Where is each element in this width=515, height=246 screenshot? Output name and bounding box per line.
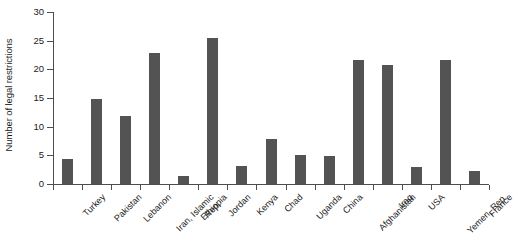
x-axis-tick <box>82 185 83 190</box>
x-axis-tick-label: Pakistan <box>112 192 143 223</box>
x-axis-tick-label-line: Uganda <box>314 192 343 221</box>
x-axis-tick <box>402 185 403 190</box>
x-axis-tick-label: Chad <box>282 192 304 214</box>
y-axis-tick-label: 10 <box>0 122 44 132</box>
y-axis-tick-label-text: 5 <box>2 150 44 160</box>
x-axis-tick-label: China <box>341 192 365 216</box>
bar <box>236 166 247 184</box>
x-axis-line <box>53 184 489 185</box>
x-axis-tick-label: Turkey <box>80 192 106 218</box>
x-axis-tick-label: Kenya <box>254 192 279 217</box>
bars-layer <box>53 12 489 184</box>
y-axis-tick-label: 30 <box>0 7 44 17</box>
x-axis-tick <box>256 185 257 190</box>
x-axis-tick <box>169 185 170 190</box>
x-axis-tick-label-line: Jordan <box>226 192 253 219</box>
bar <box>178 176 189 184</box>
x-axis-tick-label-line: Pakistan <box>112 192 143 223</box>
x-axis-tick <box>489 185 490 190</box>
bar <box>382 65 393 184</box>
x-axis-tick <box>140 185 141 190</box>
y-axis-tick-label-text: 0 <box>2 179 44 189</box>
x-axis-tick-label-line: USA <box>427 192 447 212</box>
y-axis-tick-label-text: 15 <box>2 93 44 103</box>
x-axis-tick-label-line: Turkey <box>80 192 106 218</box>
x-axis-tick <box>373 185 374 190</box>
x-axis-tick <box>431 185 432 190</box>
bar <box>353 60 364 184</box>
bar <box>207 38 218 184</box>
bar <box>469 171 480 184</box>
x-axis-tick <box>111 185 112 190</box>
x-axis-tick-label-line: China <box>341 192 365 216</box>
x-axis-tick-label-line: Lebanon <box>141 192 173 224</box>
bar <box>295 155 306 184</box>
x-axis-tick <box>460 185 461 190</box>
bar <box>411 167 422 184</box>
x-axis-tick <box>198 185 199 190</box>
y-axis-tick-label: 0 <box>0 179 44 189</box>
bar <box>324 156 335 184</box>
bar <box>149 53 160 184</box>
x-axis-tick-label: Jordan <box>226 192 253 219</box>
y-axis-tick-label-text: 30 <box>2 7 44 17</box>
x-axis-tick-label: Uganda <box>314 192 343 221</box>
x-axis-tick <box>315 185 316 190</box>
y-axis-tick-label: 15 <box>0 93 44 103</box>
x-axis-tick <box>286 185 287 190</box>
x-axis-tick-label-line: Chad <box>282 192 304 214</box>
y-axis-tick-label: 25 <box>0 36 44 46</box>
x-axis-tick <box>53 185 54 190</box>
bar <box>120 116 131 184</box>
y-axis-tick-label: 5 <box>0 150 44 160</box>
bar <box>440 60 451 184</box>
bar <box>266 139 277 184</box>
x-axis-tick-label: USA <box>427 192 447 212</box>
bar <box>62 159 73 184</box>
y-axis-tick-label: 20 <box>0 64 44 74</box>
x-axis-tick-label: France <box>488 192 515 219</box>
x-axis-tick <box>227 185 228 190</box>
y-axis-tick-label-text: 20 <box>2 64 44 74</box>
y-axis-tick-label-text: 10 <box>2 122 44 132</box>
x-axis-tick-label: Lebanon <box>141 192 173 224</box>
bar <box>91 99 102 184</box>
x-axis-tick-label-line: France <box>488 192 515 219</box>
x-axis-tick-label-line: Kenya <box>254 192 279 217</box>
y-axis-tick-label-text: 25 <box>2 36 44 46</box>
x-axis-tick <box>344 185 345 190</box>
